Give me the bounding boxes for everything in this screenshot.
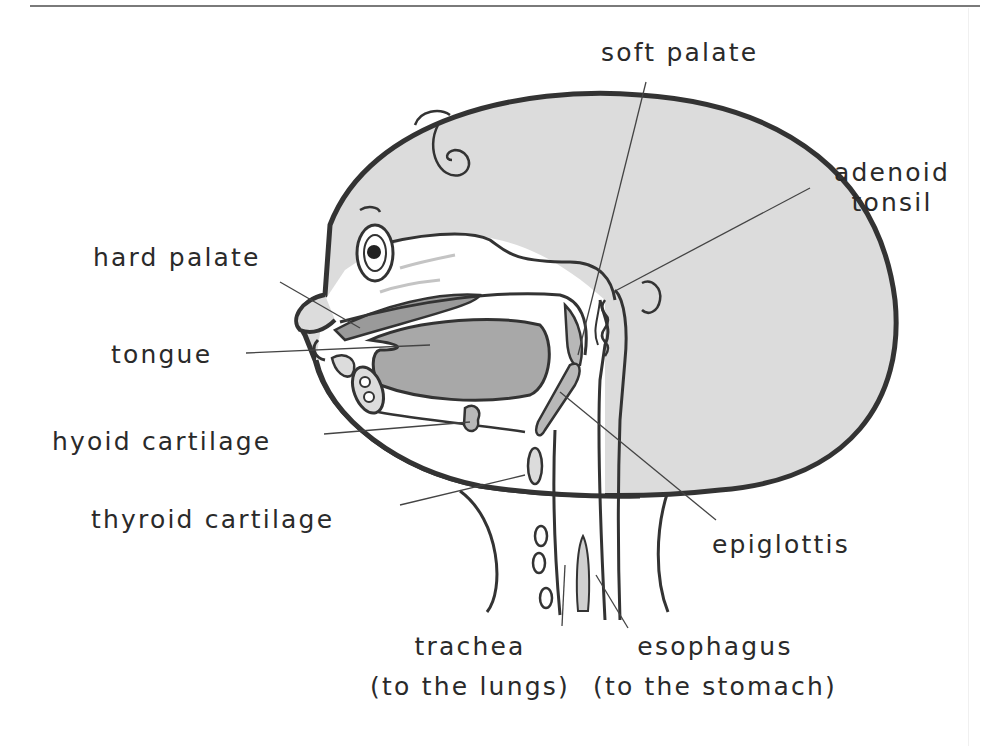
label-trachea-name: trachea (360, 632, 580, 662)
label-hyoid-cartilage: hyoid cartilage (52, 427, 271, 457)
tongue-shape (370, 320, 549, 401)
label-thyroid-cartilage: thyroid cartilage (91, 505, 334, 535)
label-hard-palate: hard palate (93, 243, 261, 273)
label-epiglottis: epiglottis (712, 530, 850, 560)
label-soft-palate: soft palate (601, 38, 758, 68)
label-trachea: trachea (to the lungs) (360, 632, 580, 702)
label-tongue: tongue (111, 340, 212, 370)
label-adenoid: adenoid (822, 158, 962, 188)
label-esophagus-note: (to the stomach) (590, 672, 840, 702)
label-esophagus-name: esophagus (590, 632, 840, 662)
neck-back-outline (658, 491, 668, 612)
neck-front-outline (460, 491, 497, 612)
label-adenoid-tonsil: adenoid tonsil (822, 158, 962, 218)
label-tonsil: tonsil (822, 188, 962, 218)
label-esophagus: esophagus (to the stomach) (590, 632, 840, 702)
label-trachea-note: (to the lungs) (360, 672, 580, 702)
